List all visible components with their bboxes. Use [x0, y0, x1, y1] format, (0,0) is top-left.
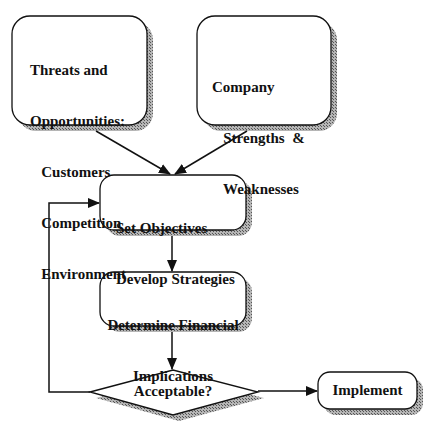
threats-line-2: Opportunities:: [30, 113, 126, 130]
threats-line-4: Competition: [30, 215, 126, 232]
financial-line-1: Determine Financial: [100, 317, 246, 334]
company-line-2: Strengths &: [212, 130, 305, 147]
threats-label: Threats and Opportunities: Customers Com…: [30, 28, 126, 300]
objectives-line-1: Set Objectives: [116, 220, 235, 237]
decision-label: Acceptable?: [110, 383, 236, 400]
implement-label: Implement: [318, 382, 417, 399]
threats-line-3: Customers: [30, 164, 126, 181]
threats-line-1: Threats and: [30, 62, 126, 79]
threats-line-5: Environment: [30, 266, 126, 283]
company-line-1: Company: [212, 79, 305, 96]
